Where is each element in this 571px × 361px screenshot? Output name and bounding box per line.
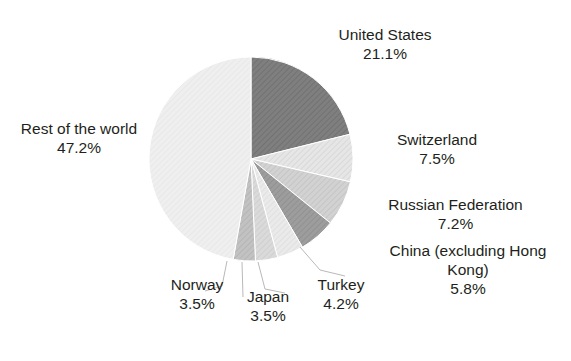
slice-label-percent: 7.5% [362, 150, 512, 169]
pie-chart-figure: United States 21.1% Switzerland 7.5% Rus… [0, 0, 571, 361]
slice-label-name-line1: China (excluding Hong [370, 242, 566, 261]
slice-label-russian-federation: Russian Federation 7.2% [348, 196, 563, 234]
slice-label-percent: 7.2% [348, 215, 563, 234]
slice-label-name: Turkey [296, 276, 386, 295]
slice-label-percent: 21.1% [300, 45, 470, 64]
slice-label-name: Russian Federation [348, 196, 563, 215]
slice-label-name: Norway [152, 276, 242, 295]
slice-label-name-line2: Kong) [370, 261, 566, 280]
pie-slice-rest-of-the-world[interactable] [149, 57, 251, 259]
slice-label-turkey: Turkey 4.2% [296, 276, 386, 314]
slice-label-rest-of-the-world: Rest of the world 47.2% [4, 120, 154, 158]
pie-slices-group [149, 57, 353, 261]
leader-line-china [300, 247, 345, 276]
slice-label-percent: 4.2% [296, 295, 386, 314]
slice-label-name: United States [300, 26, 470, 45]
slice-label-name: Rest of the world [4, 120, 154, 139]
slice-label-switzerland: Switzerland 7.5% [362, 131, 512, 169]
slice-label-norway: Norway 3.5% [152, 276, 242, 314]
slice-label-name: Switzerland [362, 131, 512, 150]
slice-label-percent: 3.5% [152, 295, 242, 314]
slice-label-united-states: United States 21.1% [300, 26, 470, 64]
slice-label-china: China (excluding Hong Kong) 5.8% [370, 242, 566, 299]
slice-label-percent: 5.8% [370, 280, 566, 299]
slice-label-percent: 47.2% [4, 139, 154, 158]
